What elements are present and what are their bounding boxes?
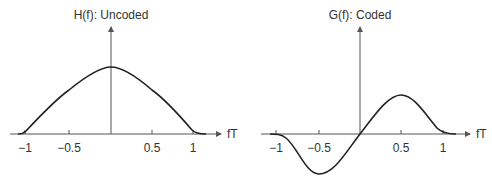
tick-label: 1 (440, 141, 447, 155)
coded-chart: G(f): Coded −1 −0.5 0.5 1 fT (261, 8, 487, 174)
x-axis-label: fT (227, 127, 238, 141)
x-axis-label: fT (476, 127, 487, 141)
uncoded-chart: H(f): Uncoded −1 −0.5 0.5 1 fT (10, 8, 238, 155)
x-tick-labels: −1 −0.5 0.5 1 (269, 141, 447, 155)
tick-label: −1 (269, 141, 283, 155)
tick-label: 0.5 (144, 141, 161, 155)
x-ticks (25, 130, 193, 134)
figure: H(f): Uncoded −1 −0.5 0.5 1 fT G(f): Cod… (0, 0, 492, 183)
tick-label: −1 (18, 141, 32, 155)
x-tick-labels: −1 −0.5 0.5 1 (18, 141, 197, 155)
uncoded-title: H(f): Uncoded (74, 8, 149, 22)
tick-label: 1 (190, 141, 197, 155)
tick-label: −0.5 (57, 141, 81, 155)
tick-label: −0.5 (307, 141, 331, 155)
tick-label: 0.5 (393, 141, 410, 155)
uncoded-curve (18, 67, 206, 134)
coded-title: G(f): Coded (329, 8, 392, 22)
